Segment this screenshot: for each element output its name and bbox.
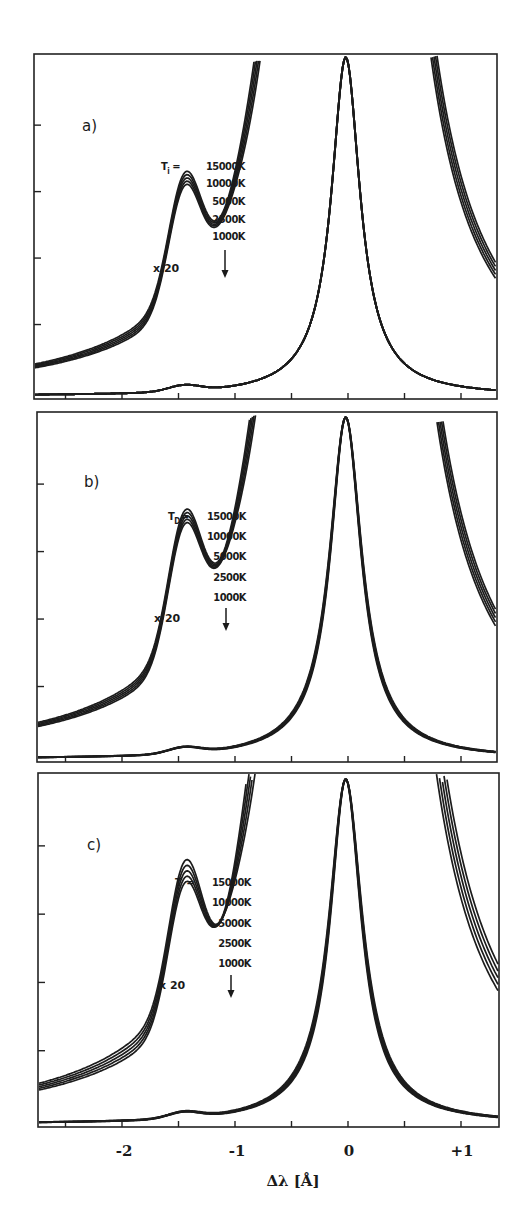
legend-temp-2500: 2500K — [218, 937, 252, 950]
legend-temp-15000: 15000K — [206, 160, 246, 173]
legend-temp-15000: 15000K — [207, 510, 247, 523]
panel-b-label: b) — [84, 473, 99, 491]
legend-temp-5000: 5000K — [218, 917, 252, 930]
legend-param-symbol: Ti= — [161, 160, 180, 176]
panel-a-legend: Ti= 15000K 10000K 5000K 2500K 1000K x 20 — [153, 160, 246, 278]
legend-temp-15000: 15000K — [212, 876, 252, 889]
legend-temp-1000: 1000K — [212, 230, 246, 243]
panel-a-curves — [35, 56, 496, 395]
scale-factor-label: x 20 — [154, 612, 181, 625]
x-axis-title: Δλ [Å] — [266, 1172, 319, 1190]
x-axis: -2 -1 0 +1 Δλ [Å] — [116, 1142, 474, 1190]
panel-c: c) T= 15000K 10000K 5000K 2500K 1000K x … — [38, 773, 499, 1127]
panel-b-frame — [37, 412, 497, 762]
panel-c-curves — [39, 774, 498, 1122]
legend-temp-1000: 1000K — [213, 591, 247, 604]
down-arrow-icon — [223, 608, 230, 631]
panel-a-label: a) — [82, 117, 97, 135]
scale-factor-label: x 20 — [153, 262, 180, 275]
legend-temp-10000: 10000K — [206, 177, 246, 190]
down-arrow-icon — [228, 975, 235, 998]
down-arrow-icon — [222, 250, 229, 278]
x-tick-label-plus-1: +1 — [450, 1142, 473, 1160]
legend-temp-5000: 5000K — [212, 195, 246, 208]
legend-temp-1000: 1000K — [218, 957, 252, 970]
panel-c-frame — [38, 773, 499, 1127]
x-tick-label-minus-2: -2 — [116, 1142, 133, 1160]
panel-c-legend: T= 15000K 10000K 5000K 2500K 1000K x 20 — [159, 876, 252, 998]
legend-temp-2500: 2500K — [212, 213, 246, 226]
panel-b-curves — [38, 415, 496, 757]
panel-a-ticks — [34, 125, 461, 399]
legend-temp-2500: 2500K — [213, 571, 247, 584]
panel-b: b) TD= 15000K 10000K 5000K 2500K 1000K x… — [37, 412, 497, 762]
panel-c-label: c) — [87, 836, 101, 854]
x-tick-label-minus-1: -1 — [229, 1142, 246, 1160]
panel-b-ticks — [37, 484, 461, 762]
figure-canvas: a) Ti= 15000K 10000K 5000K 2500K 1000K x… — [0, 0, 526, 1231]
scale-factor-label: x 20 — [159, 979, 186, 992]
panel-a: a) Ti= 15000K 10000K 5000K 2500K 1000K x… — [34, 54, 497, 399]
legend-temp-5000: 5000K — [213, 550, 247, 563]
legend-temp-10000: 10000K — [207, 530, 247, 543]
legend-temp-10000: 10000K — [212, 896, 252, 909]
x-tick-label-0: 0 — [344, 1142, 354, 1160]
